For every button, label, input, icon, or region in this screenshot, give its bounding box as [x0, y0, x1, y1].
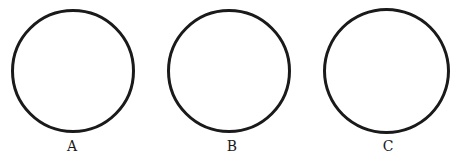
circle-c-label: C — [373, 139, 403, 153]
circle-a-label: A — [57, 139, 87, 153]
circle-b-label: B — [217, 139, 247, 153]
circle-a — [11, 9, 135, 133]
three-circles-diagram: A B C — [0, 0, 457, 164]
circle-b — [167, 9, 291, 133]
circle-c — [323, 8, 450, 134]
